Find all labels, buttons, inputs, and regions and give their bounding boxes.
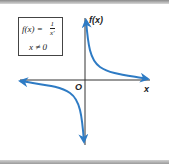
curve-branch-positive [86,20,148,79]
y-axis-label: f(x) [89,15,103,25]
bottom-border [0,160,169,164]
graph [0,0,169,164]
origin-label: O [75,82,82,92]
x-axis-label: x [144,84,149,94]
